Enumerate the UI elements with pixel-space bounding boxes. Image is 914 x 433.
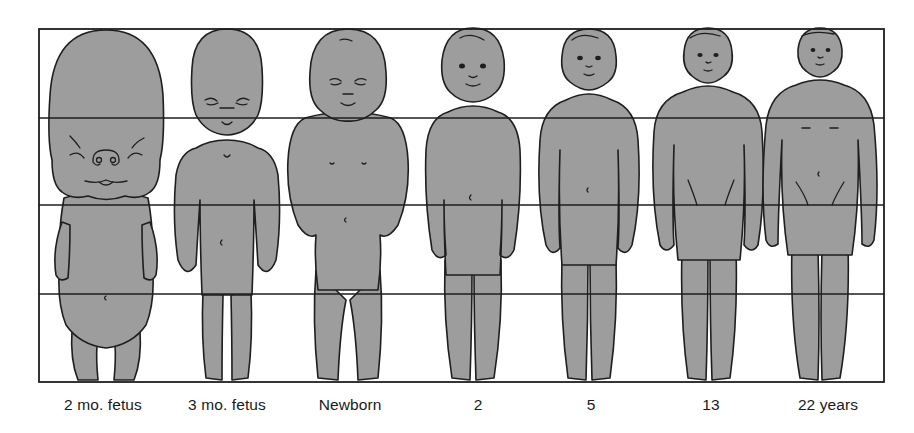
label-3mo-fetus: 3 mo. fetus (188, 396, 266, 414)
label-newborn: Newborn (319, 396, 382, 414)
label-22-years: 22 years (798, 396, 858, 414)
figure-2-years (426, 28, 521, 380)
label-2-years: 2 (474, 396, 483, 414)
label-2mo-fetus: 2 mo. fetus (64, 396, 142, 414)
body-proportions-diagram (0, 0, 914, 433)
label-5-years: 5 (587, 396, 596, 414)
figure-22-years (763, 28, 877, 380)
figure-13-years (653, 28, 763, 380)
label-13-years: 13 (702, 396, 719, 414)
